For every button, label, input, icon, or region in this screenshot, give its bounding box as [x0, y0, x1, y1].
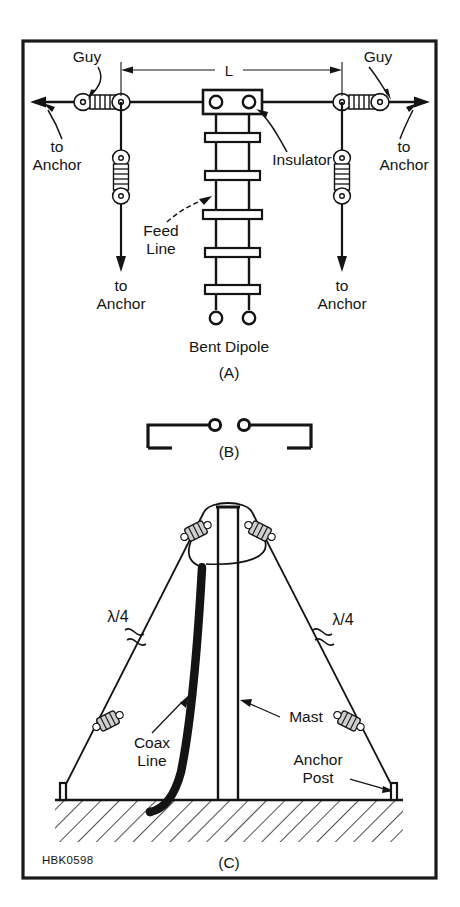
insulator-label: Insulator: [272, 151, 331, 168]
anchor-label-left-upper-line2: Anchor: [32, 156, 81, 173]
panel-a-label: (A): [219, 364, 240, 381]
anchor-label-left-lower-line2: Anchor: [96, 295, 145, 312]
anchor-label-right-lower-line2: Anchor: [317, 295, 366, 312]
figure-id-code: HBK0598: [42, 854, 93, 866]
feedline-spreader: [205, 285, 260, 294]
anchor-label-left-lower-line1: to: [115, 277, 128, 294]
feedline-spreader: [205, 248, 260, 257]
mast-label: Mast: [289, 708, 323, 725]
ground-hatching: [55, 800, 403, 842]
feed-line-label-line2: Line: [146, 240, 175, 257]
feed-line-label-line1: Feed: [143, 222, 178, 239]
quarter-wave-label-left: λ/4: [107, 608, 128, 625]
feedline-spreader: [205, 133, 260, 142]
anchor-label-right-upper-line1: to: [398, 138, 411, 155]
center-insulator-block: [203, 90, 262, 114]
feedline-spreader: [203, 210, 262, 219]
coax-label-line2: Line: [137, 752, 166, 769]
anchor-label-right-lower-line1: to: [336, 277, 349, 294]
guy-label-left: Guy: [73, 48, 102, 65]
dimension-label-L: L: [225, 62, 233, 79]
guy-label-right: Guy: [364, 48, 393, 65]
feed-terminal-right: [238, 419, 249, 430]
anchor-post-left: [60, 783, 66, 800]
figure-page: L Guy Guy to Anchor to Anchor: [0, 0, 460, 907]
feed-terminal-left: [209, 419, 220, 430]
panel-b-label: (B): [219, 443, 240, 460]
anchor-post-right: [391, 783, 397, 800]
panel-c-label: (C): [218, 854, 240, 871]
anchor-label-left-upper-line1: to: [51, 138, 64, 155]
quarter-wave-label-right: λ/4: [332, 611, 353, 628]
anchor-post-label-line2: Post: [302, 769, 334, 786]
anchor-post-label-line1: Anchor: [293, 751, 342, 768]
feedline-spreader: [205, 171, 260, 180]
antenna-figure: L Guy Guy to Anchor to Anchor: [0, 0, 460, 907]
panel-a-caption: Bent Dipole: [189, 338, 269, 355]
coax-label-line1: Coax: [134, 734, 170, 751]
anchor-label-right-upper-line2: Anchor: [379, 156, 428, 173]
